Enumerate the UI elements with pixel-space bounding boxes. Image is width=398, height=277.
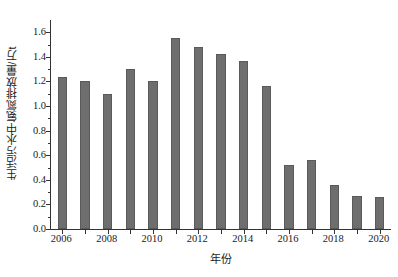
bar (194, 47, 204, 229)
x-axis-tick-label: 2016 (278, 233, 299, 245)
y-axis-tick-label: 1.4 (33, 52, 46, 62)
bar (284, 165, 294, 229)
y-axis-tick-label: 1.6 (33, 27, 46, 37)
bar (239, 61, 249, 229)
y-axis-tick-label: 1.0 (33, 101, 46, 111)
y-axis-tick-major (46, 229, 51, 230)
bar (330, 185, 340, 229)
y-axis-tick-label: 1.2 (33, 76, 46, 86)
y-axis-title-text: 生活污水中氨氮排放量/万t (4, 46, 20, 180)
bar-chart: 生活污水中氨氮排放量/万t 0.00.20.40.60.81.01.21.41.… (0, 0, 398, 277)
bar (375, 197, 385, 229)
bar (307, 160, 317, 229)
y-axis-tick-labels: 0.00.20.40.60.81.01.21.41.6 (22, 20, 48, 230)
y-axis-tick-label: 0.6 (33, 150, 46, 160)
bar (216, 54, 226, 229)
x-axis-tick-label: 2012 (187, 233, 208, 245)
y-axis-title: 生活污水中氨氮排放量/万t (0, 0, 24, 226)
x-axis-title: 年份 (50, 250, 391, 266)
y-axis-tick-label: 0.8 (33, 126, 46, 136)
plot-area (50, 20, 391, 230)
y-axis-tick-label: 0.2 (33, 199, 46, 209)
x-axis-tick-label: 2020 (368, 233, 389, 245)
y-axis-tick-label: 0.0 (33, 224, 46, 234)
x-axis-tick-label: 2010 (142, 233, 163, 245)
x-axis-tick-label: 2018 (323, 233, 344, 245)
bars-layer (51, 20, 391, 229)
x-axis-tick-labels: 20062008201020122014201620182020 (50, 233, 391, 249)
bar (80, 81, 90, 229)
x-axis-tick-label: 2006 (51, 233, 72, 245)
bar (262, 86, 272, 229)
bar (103, 94, 113, 229)
y-axis-tick-label: 0.4 (33, 175, 46, 185)
bar (352, 196, 362, 229)
x-axis-tick-label: 2014 (232, 233, 253, 245)
bar (126, 69, 136, 229)
x-axis-title-text: 年份 (210, 253, 232, 265)
bar (58, 77, 68, 229)
bar (148, 81, 158, 229)
x-axis-tick-label: 2008 (96, 233, 117, 245)
bar (171, 38, 181, 229)
